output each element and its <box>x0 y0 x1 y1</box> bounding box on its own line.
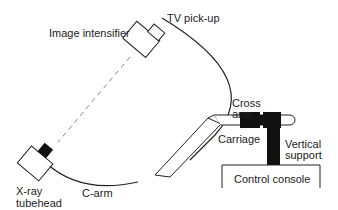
label-xray-line2: tubehead <box>16 197 62 209</box>
label-image-intensifier: Image intensifier <box>49 27 130 39</box>
c-arm-base-segment <box>155 118 221 177</box>
xray-beam <box>58 57 130 142</box>
c-arm-diagram: Image intensifier TV pick-up Cross arm C… <box>0 0 338 210</box>
label-vertical-support-line2: support <box>285 149 322 161</box>
label-control-console: Control console <box>234 173 310 185</box>
label-carriage: Carriage <box>218 133 260 145</box>
label-cross-arm-line2: arm <box>232 108 251 120</box>
label-tv-pickup: TV pick-up <box>167 12 220 24</box>
label-xray-line1: X-ray <box>16 185 42 197</box>
label-c-arm: C-arm <box>82 187 113 199</box>
vertical-support <box>267 127 280 165</box>
